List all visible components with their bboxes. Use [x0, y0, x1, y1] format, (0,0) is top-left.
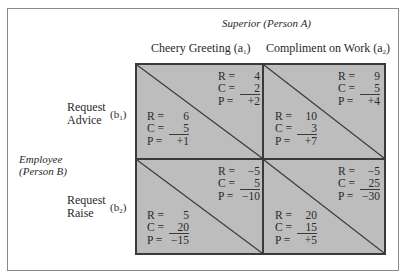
row-player-label: Employee (Person B) — [19, 153, 67, 177]
cell-a1-b2-employee-payoff: R =5 C =20 P =−15 — [147, 209, 189, 246]
row-code-b1: (b1) — [110, 108, 126, 122]
column-player-name: Superior — [222, 17, 261, 29]
row-code-b2: (b2) — [110, 201, 126, 215]
row-divider — [137, 158, 384, 160]
cell-a1-b1-superior-payoff: R =4 C =2 P =+2 — [218, 70, 260, 107]
cell-a1-b1-employee-payoff: R =6 C =5 P =+1 — [147, 110, 189, 147]
cell-a2-b2-superior-payoff: R =−5 C =25 P =−30 — [338, 165, 380, 202]
cell-a2-b1-superior-payoff: R =9 C =5 P =+4 — [338, 70, 380, 107]
row-header-b1: Request Advice — [67, 101, 106, 127]
payoff-matrix: R =4 C =2 P =+2 R =6 C =5 P =+1 R =9 C =… — [135, 63, 386, 255]
column-header-a1: Cheery Greeting (a1) — [151, 41, 250, 56]
cell-a2-b1-employee-payoff: R =10 C =3 P =+7 — [275, 110, 317, 147]
column-header-a2: Compliment on Work (a2) — [266, 41, 390, 56]
column-player-label: Superior (Person A) — [222, 17, 311, 29]
cell-a1-b2-superior-payoff: R =−5 C =5 P =−10 — [218, 165, 260, 202]
cell-a2-b2-employee-payoff: R =20 C =15 P =+5 — [275, 209, 317, 246]
column-player-person: (Person A) — [263, 17, 311, 29]
row-header-b2: Request Raise — [67, 194, 106, 220]
